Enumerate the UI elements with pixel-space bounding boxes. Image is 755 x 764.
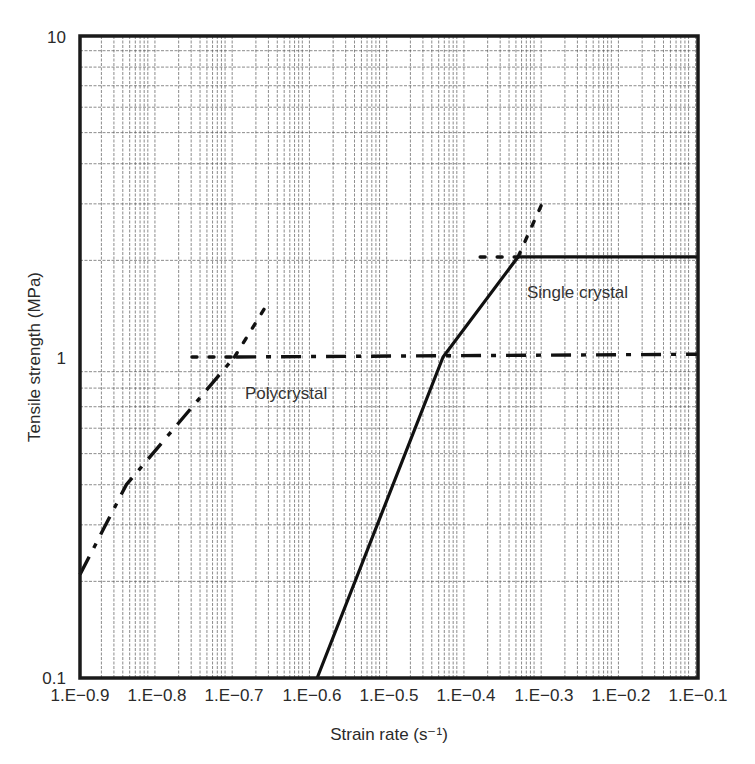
data-series (80, 204, 698, 678)
x-tick-label: 1.E−0.8 (127, 686, 186, 705)
series-extension (235, 303, 268, 357)
annotation-polycrystal: Polycrystal (245, 384, 327, 403)
x-axis-tick-labels: 1.E−0.9 1.E−0.8 1.E−0.7 1.E−0.6 1.E−0.5 … (50, 686, 727, 705)
series-single-crystal (317, 257, 698, 678)
y-tick-label: 10 (47, 28, 66, 47)
y-axis-title: Tensile strength (MPa) (25, 272, 44, 442)
x-tick-label: 1.E−0.9 (50, 686, 109, 705)
y-tick-label: 1 (57, 349, 66, 368)
x-tick-label: 1.E−0.6 (282, 686, 341, 705)
series-polycrystal (80, 354, 698, 574)
tensile-strength-chart: 10 1 0.1 1.E−0.9 1.E−0.8 1.E−0.7 1.E−0.6… (0, 0, 755, 764)
annotation-single-crystal: Single crystal (527, 283, 628, 302)
x-tick-label: 1.E−0.1 (668, 686, 727, 705)
x-axis-title: Strain rate (s⁻¹) (330, 725, 448, 744)
y-axis-tick-labels: 10 1 0.1 (42, 28, 66, 688)
x-tick-label: 1.E−0.4 (436, 686, 495, 705)
x-tick-label: 1.E−0.5 (359, 686, 418, 705)
x-tick-label: 1.E−0.2 (591, 686, 650, 705)
x-tick-label: 1.E−0.7 (204, 686, 263, 705)
x-tick-label: 1.E−0.3 (514, 686, 573, 705)
